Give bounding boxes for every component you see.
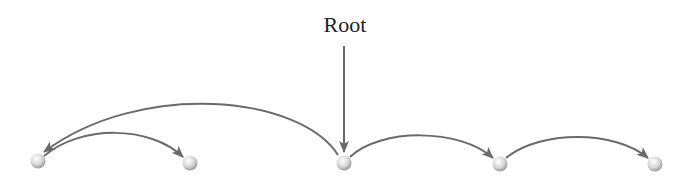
node-3-root bbox=[337, 156, 352, 171]
edge-n3-n1 bbox=[44, 104, 338, 155]
node-5 bbox=[648, 157, 663, 172]
edge-n1-n2 bbox=[44, 133, 183, 157]
edge-n4-n5 bbox=[506, 137, 648, 158]
linked-list-diagram bbox=[0, 0, 684, 183]
node-1 bbox=[31, 154, 46, 169]
node-2 bbox=[183, 156, 198, 171]
edge-n3-n4 bbox=[350, 135, 493, 158]
node-4 bbox=[493, 157, 508, 172]
